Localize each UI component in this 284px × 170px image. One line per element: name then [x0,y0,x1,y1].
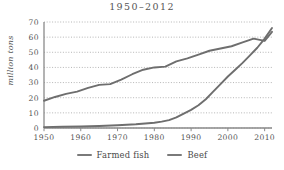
y-tick-labels: 010203040506070 [29,18,39,133]
x-tick-label: 2010 [254,133,275,142]
y-tick-label: 10 [29,109,39,118]
x-tick-label: 1970 [107,133,128,142]
legend-swatch-icon [167,154,182,156]
x-tick-label: 1980 [144,133,165,142]
y-tick-label: 20 [29,94,39,103]
y-tick-label: 70 [29,18,39,27]
legend-item-farmed-fish[interactable]: Farmed fish [77,150,150,160]
chart-legend: Farmed fish Beef [0,150,284,160]
x-tick-label: 1990 [181,133,202,142]
y-tick-label: 0 [34,124,39,133]
chart-container: 1950–2012 million tons 010203040506070 1… [0,0,284,170]
x-tick-labels: 1950196019701980199020002010 [34,133,276,142]
x-tick-label: 1950 [34,133,55,142]
y-tick-label: 40 [29,63,39,72]
grid-lines [44,22,272,128]
x-tick-label: 1960 [70,133,91,142]
y-tick-label: 30 [29,78,39,87]
legend-swatch-icon [77,154,92,156]
y-tick-label: 60 [29,33,39,42]
y-tick-label: 50 [29,48,39,57]
plot-area: 010203040506070 195019601970198019902000… [0,0,284,170]
x-tick-label: 2000 [217,133,238,142]
series-lines [44,28,272,127]
legend-label: Farmed fish [97,150,150,160]
series-line [44,28,272,127]
legend-item-beef[interactable]: Beef [167,150,207,160]
legend-label: Beef [187,150,207,160]
